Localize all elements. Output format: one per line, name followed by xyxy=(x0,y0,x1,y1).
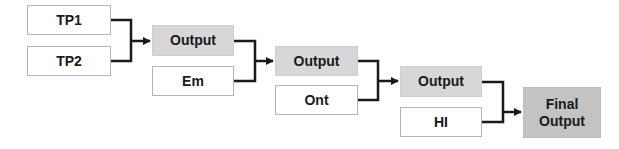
hi-box: HI xyxy=(400,107,482,137)
output-box-1: Output xyxy=(152,25,234,56)
em-label: Em xyxy=(182,73,204,90)
final-output-box: Final Output xyxy=(523,87,601,138)
tp2-label: TP2 xyxy=(56,53,82,70)
hi-label: HI xyxy=(434,114,448,131)
ont-box: Ont xyxy=(275,85,358,115)
ont-label: Ont xyxy=(304,92,328,109)
output-label-2: Output xyxy=(294,53,340,70)
final-output-label-line2: Output xyxy=(539,113,585,130)
output-label-3: Output xyxy=(418,73,464,90)
tp1-label: TP1 xyxy=(56,12,82,29)
output-label-1: Output xyxy=(170,32,216,49)
final-output-label-line1: Final xyxy=(546,96,579,113)
tp2-box: TP2 xyxy=(27,46,111,76)
output-box-2: Output xyxy=(275,46,358,76)
em-box: Em xyxy=(152,66,234,96)
output-box-3: Output xyxy=(400,66,482,97)
tp1-box: TP1 xyxy=(27,5,111,35)
